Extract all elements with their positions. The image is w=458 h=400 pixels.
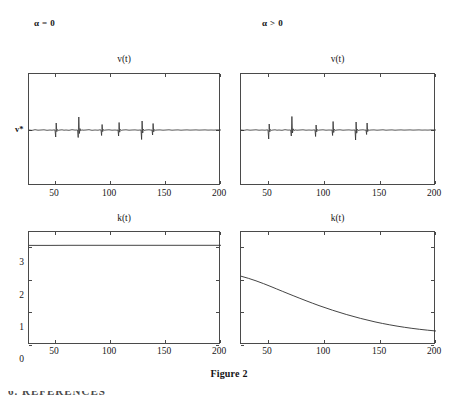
plot-frame-top-left — [28, 73, 220, 185]
panel-v-t-alpha-zero: v(t) v* 50 100 150 200 — [28, 54, 220, 186]
xtick-label-150-tl: 150 — [157, 188, 171, 198]
plot-frame-bottom-right — [240, 231, 435, 344]
xtick-label-50-br: 50 — [262, 346, 272, 356]
panel-title-v-t-right: v(t) — [240, 54, 435, 64]
condition-label-alpha-positive: α > 0 — [262, 18, 283, 28]
ytick-0-br — [241, 345, 244, 346]
ytick-label-3-bl: 3 — [14, 257, 24, 267]
plot-frame-top-right — [240, 73, 435, 185]
trace-v-t-alpha-positive — [241, 74, 436, 186]
plot-frame-bottom-left — [28, 231, 220, 344]
xtick-label-50-tr: 50 — [262, 188, 272, 198]
xtick-label-50-tl: 50 — [49, 188, 59, 198]
ytick-label-1-bl: 1 — [14, 322, 24, 332]
footer-section-heading-clipped: 6. REFERENCES — [8, 391, 106, 400]
panel-title-k-t-left: k(t) — [28, 213, 220, 223]
xtick-label-100-tr: 100 — [316, 188, 330, 198]
footer-section-heading-text: 6. REFERENCES — [8, 391, 106, 397]
xtick-label-200-tl: 200 — [212, 188, 226, 198]
xtick-label-100-tl: 100 — [102, 188, 116, 198]
panel-v-t-alpha-positive: v(t) 50 100 150 200 — [240, 54, 435, 186]
xtick-label-150-br: 150 — [372, 346, 386, 356]
xtick-label-150-bl: 150 — [157, 346, 171, 356]
ytick-label-0-bl: 0 — [14, 354, 24, 364]
xtick-label-200-br: 200 — [427, 346, 441, 356]
xtick-label-200-bl: 200 — [212, 346, 226, 356]
axis-label-v-star: v* — [15, 124, 24, 134]
panel-k-t-alpha-positive: k(t) 50 100 150 200 — [240, 213, 435, 358]
xtick-label-50-bl: 50 — [49, 346, 59, 356]
xtick-label-150-tr: 150 — [372, 188, 386, 198]
panel-title-v-t-left: v(t) — [28, 54, 220, 64]
ytick-label-2-bl: 2 — [14, 290, 24, 300]
panel-k-t-alpha-zero: k(t) 0 1 2 3 50 — [28, 213, 220, 358]
figure-caption: Figure 2 — [0, 368, 458, 379]
condition-label-alpha-zero: α = 0 — [34, 18, 55, 28]
panel-title-k-t-right: k(t) — [240, 213, 435, 223]
trace-v-t-alpha-zero — [29, 74, 221, 186]
xtick-label-100-br: 100 — [316, 346, 330, 356]
ytick-0-bl — [29, 345, 32, 346]
xtick-label-200-tr: 200 — [427, 188, 441, 198]
trace-k-t-decay — [241, 232, 436, 345]
figure-page: α = 0 α > 0 v(t) v* 50 100 150 — [0, 0, 458, 400]
trace-k-t-constant — [29, 232, 221, 345]
xtick-label-100-bl: 100 — [102, 346, 116, 356]
